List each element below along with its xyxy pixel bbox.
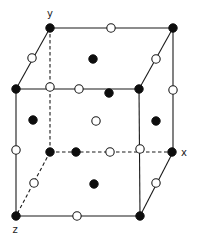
edge-mid-back-right-vertical-atom [169, 86, 177, 94]
edge-mid-top-front-atom [75, 85, 83, 93]
edge-mid-top-left-atom [28, 54, 36, 62]
edge-mid-bottom-right-atom [152, 179, 160, 187]
corner-front-top-right-atom [135, 85, 143, 93]
axis-label-y: y [47, 8, 53, 19]
corner-front-bottom-left-atom [12, 212, 20, 220]
corner-back-bottom-left-atom [46, 148, 54, 156]
corner-front-bottom-right-atom [136, 212, 144, 220]
crystal-lattice-diagram: y x z [0, 0, 200, 242]
corner-back-top-right-atom [169, 24, 177, 32]
face-center-front-atom [105, 89, 113, 97]
corner-back-top-left-atom [46, 24, 54, 32]
edge-mid-bottom-left-atom [30, 179, 38, 187]
face-center-left-atom [29, 116, 37, 124]
edge-mid-back-left-vertical-atom [46, 83, 54, 91]
axis-label-x: x [181, 147, 187, 158]
edge-mid-bottom-front-atom [73, 212, 81, 220]
face-center-back-atom [72, 148, 80, 156]
corner-front-top-left-atom [12, 85, 20, 93]
face-center-bottom-atom [90, 180, 98, 188]
edge-mid-top-right-atom [152, 55, 160, 63]
corner-back-bottom-right-atom [168, 148, 176, 156]
edge-mid-front-left-vertical-atom [12, 146, 20, 154]
face-center-right-atom [152, 117, 160, 125]
body-center-atom [92, 117, 100, 125]
edge-mid-top-back-atom [107, 24, 115, 32]
edge-mid-bottom-back-atom [106, 148, 114, 156]
face-center-top-atom [89, 55, 97, 63]
edge-mid-front-right-vertical-atom [136, 145, 144, 153]
axis-label-z: z [12, 224, 17, 235]
